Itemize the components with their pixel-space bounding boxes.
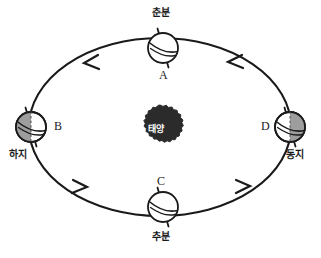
- sun-label: 태양: [148, 122, 163, 135]
- earth-sphere-a: [148, 33, 178, 63]
- orbit-arrow-lower-right: [236, 180, 250, 193]
- globe-letter-d: D: [261, 120, 270, 132]
- globe-letter-a: A: [159, 69, 168, 81]
- season-label-dongji: 동지: [286, 150, 303, 160]
- earth-globe-c: [148, 188, 178, 227]
- earth-globe-b: [16, 108, 46, 147]
- season-label-chubun: 추분: [152, 232, 169, 242]
- earth-globe-a: [148, 29, 178, 68]
- orbit-diagram: 태양 춘분 A B 하지 C 추분 D 동지: [0, 0, 321, 258]
- season-label-haji: 하지: [9, 150, 26, 160]
- earth-sphere-c: [148, 192, 178, 222]
- globe-letter-b: B: [54, 120, 62, 132]
- earth-globe-d: [275, 108, 305, 147]
- orbit-arrow-lower-left: [72, 180, 87, 193]
- orbit-arrow-upper-left: [84, 55, 99, 69]
- globe-letter-c: C: [157, 175, 165, 187]
- season-label-chunbun: 춘분: [152, 8, 169, 18]
